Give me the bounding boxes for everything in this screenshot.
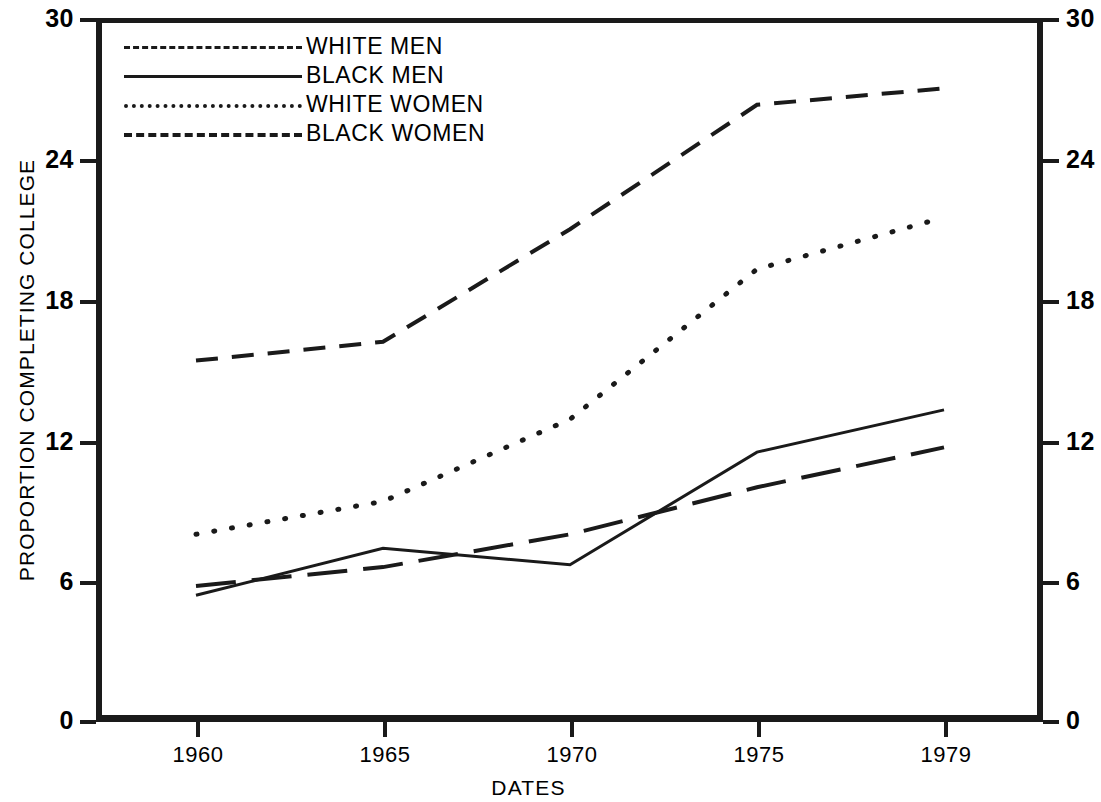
y-axis-label-right: 30 [1066, 4, 1095, 33]
y-tick-right [1043, 441, 1059, 445]
y-axis-label-right: 0 [1066, 706, 1080, 735]
y-axis-title: PROPORTION COMPLETING COLLEGE [10, 18, 44, 722]
x-tick [757, 722, 761, 737]
x-axis-title-text: DATES [491, 776, 565, 799]
legend-line-dotted-icon [124, 98, 302, 112]
y-tick-left [80, 159, 96, 163]
y-tick-left [80, 581, 96, 585]
x-tick [383, 722, 387, 737]
y-axis-title-text: PROPORTION COMPLETING COLLEGE [15, 159, 39, 581]
y-axis-label-right: 18 [1066, 286, 1095, 315]
y-axis-label-left: 30 [45, 4, 74, 33]
y-axis-label-left: 12 [45, 427, 74, 456]
legend-line-solid-icon [124, 69, 302, 83]
x-axis-label: 1975 [714, 742, 804, 768]
x-axis-label: 1960 [153, 742, 243, 768]
y-tick-right [1043, 18, 1059, 22]
y-tick-left [80, 18, 96, 22]
y-tick-left [80, 720, 96, 724]
x-axis-label: 1979 [901, 742, 991, 768]
y-tick-right [1043, 159, 1059, 163]
legend-item-label: WHITE MEN [302, 33, 443, 60]
legend-item-label: BLACK MEN [302, 62, 444, 89]
legend-line-longdash-icon [124, 127, 302, 141]
y-axis-label-left: 18 [45, 286, 74, 315]
y-axis-label-right: 6 [1066, 567, 1080, 596]
x-axis-label: 1965 [340, 742, 430, 768]
legend-item-black-men: BLACK MEN [124, 61, 464, 90]
y-tick-left [80, 300, 96, 304]
chart-legend: WHITE MEN BLACK MEN WHITE WOMEN BLACK WO… [124, 32, 464, 148]
y-tick-left [80, 441, 96, 445]
y-axis-label-right: 24 [1066, 145, 1095, 174]
x-tick [196, 722, 200, 737]
y-axis-label-right: 12 [1066, 427, 1095, 456]
legend-item-label: WHITE WOMEN [302, 91, 484, 118]
chart-figure: PROPORTION COMPLETING COLLEGE 30 24 18 1… [0, 0, 1101, 802]
legend-item-label: BLACK WOMEN [302, 120, 485, 147]
y-tick-right [1043, 300, 1059, 304]
legend-item-white-men: WHITE MEN [124, 32, 464, 61]
legend-line-dashed-icon [124, 40, 302, 54]
y-axis-label-left: 6 [60, 567, 74, 596]
y-axis-label-left: 0 [60, 706, 74, 735]
x-axis-label: 1970 [527, 742, 617, 768]
y-tick-right [1043, 581, 1059, 585]
legend-item-black-women: BLACK WOMEN [124, 119, 464, 148]
x-axis-title: DATES [0, 776, 1101, 800]
x-tick [570, 722, 574, 737]
y-axis-label-left: 24 [45, 145, 74, 174]
legend-item-white-women: WHITE WOMEN [124, 90, 464, 119]
x-tick [944, 722, 948, 737]
y-tick-right [1043, 720, 1059, 724]
